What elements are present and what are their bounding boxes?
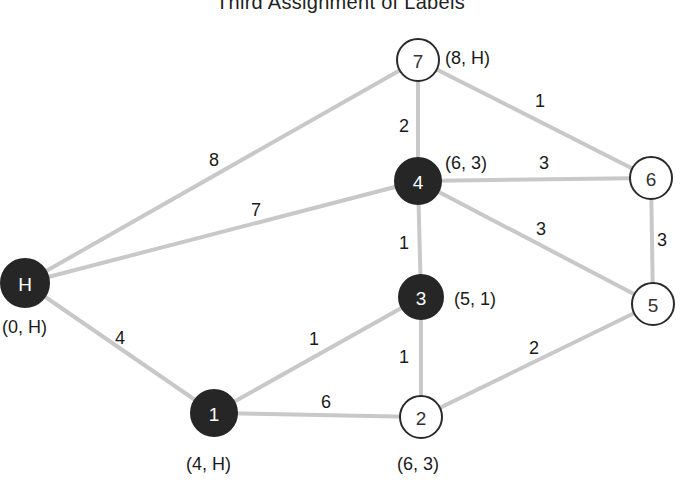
edge-H-1 bbox=[25, 283, 214, 413]
node-H: H bbox=[1, 259, 49, 307]
node-distance-tag: (6, 3) bbox=[445, 153, 487, 173]
node-1: 1 bbox=[191, 390, 237, 436]
edge-layer bbox=[25, 60, 653, 417]
node-label: 3 bbox=[416, 288, 427, 309]
edge-1-2 bbox=[214, 413, 421, 417]
node-distance-tag: (0, H) bbox=[2, 317, 47, 337]
node-label: 7 bbox=[413, 51, 424, 72]
edge-weight-label: 1 bbox=[309, 329, 319, 349]
edge-weight-label: 2 bbox=[529, 338, 539, 358]
network-graph: 8741611213332 H1234567 (0, H)(4, H)(6, 3… bbox=[0, 0, 681, 485]
node-label: 5 bbox=[648, 295, 659, 316]
node-distance-tag: (4, H) bbox=[186, 454, 231, 474]
edge-1-3 bbox=[214, 297, 421, 413]
edge-4-5 bbox=[418, 181, 653, 304]
edge-weight-label: 3 bbox=[539, 153, 549, 173]
node-label: H bbox=[18, 274, 32, 295]
edge-weight-label: 8 bbox=[209, 150, 219, 170]
edge-weight-label: 4 bbox=[115, 328, 125, 348]
edge-weight-label: 1 bbox=[399, 347, 409, 367]
node-distance-tag: (8, H) bbox=[445, 48, 490, 68]
node-7: 7 bbox=[397, 39, 439, 81]
edge-2-5 bbox=[421, 304, 653, 417]
node-label: 1 bbox=[209, 404, 220, 425]
node-3: 3 bbox=[399, 275, 443, 319]
node-2: 2 bbox=[400, 396, 442, 438]
node-6: 6 bbox=[630, 157, 672, 199]
edge-weight-label: 6 bbox=[321, 392, 331, 412]
edge-weight-label: 3 bbox=[657, 230, 667, 250]
edge-weight-label: 2 bbox=[399, 116, 409, 136]
edge-4-6 bbox=[418, 178, 651, 181]
edge-weight-layer: 8741611213332 bbox=[115, 91, 667, 412]
edge-weight-label: 1 bbox=[535, 91, 545, 111]
node-label: 4 bbox=[413, 172, 424, 193]
edge-weight-label: 1 bbox=[399, 233, 409, 253]
node-distance-tag: (5, 1) bbox=[454, 289, 496, 309]
node-label: 2 bbox=[416, 408, 427, 429]
edge-H-7 bbox=[25, 60, 418, 283]
node-5: 5 bbox=[632, 283, 674, 325]
node-4: 4 bbox=[395, 158, 441, 204]
edge-weight-label: 3 bbox=[536, 219, 546, 239]
edge-H-4 bbox=[25, 181, 418, 283]
node-distance-tag: (6, 3) bbox=[397, 454, 439, 474]
node-label: 6 bbox=[646, 169, 657, 190]
edge-weight-label: 7 bbox=[251, 200, 261, 220]
